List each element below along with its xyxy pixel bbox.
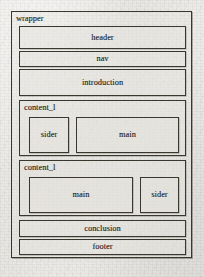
content-1-main-box: main [76, 117, 179, 153]
content-2-sider-label: sider [141, 191, 178, 199]
conclusion-label: conclusion [20, 224, 185, 232]
content-1-label: content_l [24, 104, 55, 112]
header-label: header [20, 33, 185, 41]
introduction-box: introduction [19, 69, 186, 96]
page-layout-diagram: wrapper header nav introduction content_… [11, 11, 192, 258]
header-box: header [19, 26, 186, 49]
conclusion-box: conclusion [19, 220, 186, 237]
content-2-main-label: main [30, 191, 132, 199]
wrapper-box: wrapper header nav introduction content_… [11, 11, 192, 258]
nav-label: nav [20, 55, 185, 63]
nav-box: nav [19, 51, 186, 67]
content-2-box: content_l main sider [19, 160, 186, 216]
content-1-box: content_l sider main [19, 100, 186, 156]
content-2-label: content_l [24, 164, 55, 172]
wrapper-label: wrapper [16, 15, 44, 23]
content-2-main-box: main [29, 177, 133, 213]
content-1-main-label: main [77, 131, 178, 139]
footer-label: footer [20, 243, 185, 251]
introduction-label: introduction [20, 78, 185, 86]
content-1-sider-box: sider [29, 117, 69, 153]
footer-box: footer [19, 239, 186, 255]
content-2-sider-box: sider [140, 177, 179, 213]
content-1-sider-label: sider [30, 131, 68, 139]
